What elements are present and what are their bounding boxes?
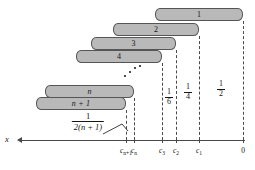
- dropper-c3: [162, 63, 163, 140]
- tick-zero: [243, 137, 244, 143]
- tick-c1: [199, 137, 200, 143]
- callout-fraction-numerator: 1: [72, 112, 104, 121]
- fraction-denominator: 4: [184, 93, 192, 101]
- tick-label-subscript: 1: [199, 150, 202, 156]
- callout-fraction-denominator: 2(n + 1): [72, 123, 104, 132]
- block-label: 1: [197, 11, 201, 19]
- stacked-blocks-diagram: 1234nn + 1 161412 1 2(n + 1) x cn+1cnc3c…: [0, 0, 255, 170]
- block-label: 3: [131, 40, 135, 48]
- x-axis-arrow-icon: [17, 137, 22, 143]
- block-label: 4: [117, 53, 121, 61]
- tick-cn: [134, 137, 135, 143]
- callout-fraction: 1 2(n + 1): [72, 112, 104, 132]
- block-label: n + 1: [72, 100, 90, 108]
- tick-label-text: 0: [241, 146, 245, 155]
- block-4: 4: [76, 50, 162, 63]
- tick-c3-label: c3: [159, 146, 165, 155]
- fraction-one-half: 12: [217, 80, 225, 99]
- callout-leader-line: [102, 121, 132, 137]
- tick-zero-label: 0: [241, 146, 245, 155]
- tick-c3: [162, 137, 163, 143]
- dropper-c1: [199, 36, 200, 140]
- fraction-one-quarter: 14: [184, 83, 192, 102]
- fraction-numerator: 1: [165, 88, 173, 96]
- dropper-c2: [176, 50, 177, 140]
- tick-c2-label: c2: [173, 146, 179, 155]
- block-1: 1: [155, 8, 243, 21]
- tick-cn1: [126, 137, 127, 143]
- block-label: n: [87, 88, 91, 96]
- x-axis-label: x: [5, 134, 9, 144]
- block-3: 3: [91, 37, 176, 50]
- dropper-zero: [243, 21, 244, 140]
- fraction-numerator: 1: [184, 83, 192, 91]
- tick-label-subscript: n: [134, 150, 137, 156]
- tick-cn-label: cn: [131, 146, 137, 155]
- tick-c2: [176, 137, 177, 143]
- dropper-cn: [134, 98, 135, 140]
- diagonal-ellipsis-icon: [124, 65, 144, 79]
- ellipsis-dot: [129, 71, 131, 73]
- ellipsis-dot: [139, 65, 141, 67]
- tick-label-subscript: 2: [176, 150, 179, 156]
- ellipsis-dot: [124, 75, 126, 77]
- fraction-one-sixth: 16: [165, 88, 173, 107]
- block-label: 2: [154, 26, 158, 34]
- tick-c1-label: c1: [196, 146, 202, 155]
- fraction-numerator: 1: [217, 80, 225, 88]
- block-2: 2: [113, 23, 199, 36]
- block-n-1: n + 1: [36, 97, 126, 110]
- ellipsis-dot: [134, 67, 136, 69]
- fraction-denominator: 2: [217, 90, 225, 98]
- tick-label-subscript: 3: [162, 150, 165, 156]
- fraction-denominator: 6: [165, 98, 173, 106]
